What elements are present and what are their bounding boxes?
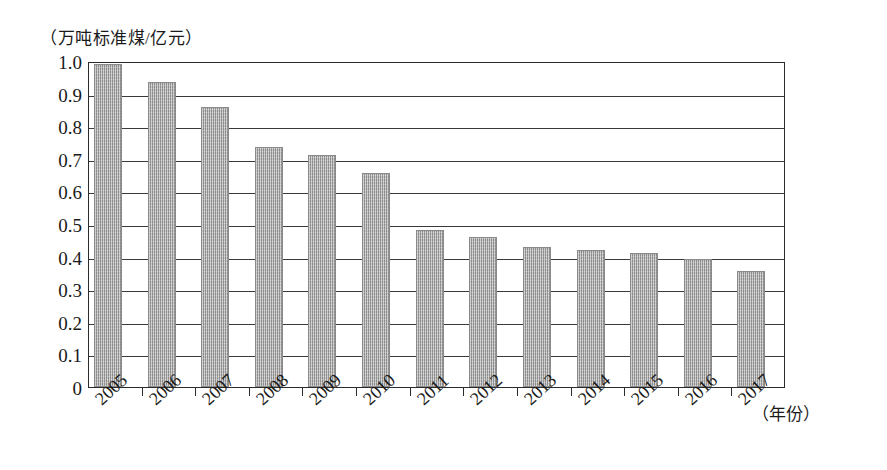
bar xyxy=(201,107,229,387)
bar-chart-figure: （万吨标准煤/亿元） 1.00.90.80.70.60.50.40.30.20.… xyxy=(0,0,887,470)
bars-layer xyxy=(89,63,784,387)
y-axis-tick-label: 0.2 xyxy=(34,313,82,332)
bar xyxy=(523,247,551,387)
bar xyxy=(630,253,658,387)
bar xyxy=(94,64,122,387)
bar xyxy=(684,259,712,387)
bar xyxy=(308,155,336,387)
y-axis-tick-label: 0.6 xyxy=(34,183,82,202)
plot-area xyxy=(88,62,785,388)
y-axis-tick-label: 1.0 xyxy=(34,53,82,72)
bar xyxy=(469,237,497,387)
y-axis-tick-label: 0.4 xyxy=(34,248,82,267)
y-axis-tick-label: 0.9 xyxy=(34,85,82,104)
bar xyxy=(577,250,605,387)
bar xyxy=(362,173,390,387)
y-axis-tick-label: 0.3 xyxy=(34,281,82,300)
bar xyxy=(416,230,444,387)
bar xyxy=(148,82,176,387)
y-axis-tick-label: 0.1 xyxy=(34,346,82,365)
y-axis-tick-label: 0 xyxy=(34,379,82,398)
y-axis-tick-labels: 1.00.90.80.70.60.50.40.30.20.10 xyxy=(30,62,82,388)
x-axis-tick-labels: 2005200620072008200920102011201220132014… xyxy=(88,394,848,464)
y-axis-tick-label: 0.8 xyxy=(34,118,82,137)
y-axis-tick-label: 0.7 xyxy=(34,150,82,169)
y-axis-unit-label: （万吨标准煤/亿元） xyxy=(40,24,203,49)
x-axis-unit-label: （年份） xyxy=(752,400,820,425)
y-axis-tick-label: 0.5 xyxy=(34,216,82,235)
bar xyxy=(255,147,283,387)
